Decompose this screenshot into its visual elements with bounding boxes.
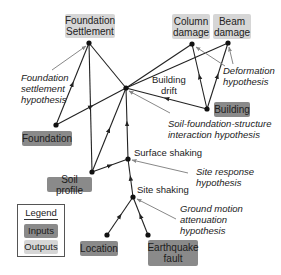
node-dot-site-shaking[interactable] (130, 194, 135, 199)
node-dot-building[interactable] (204, 106, 209, 111)
hypothesis-ground-motion: Ground motion attenuation hypothesis (180, 203, 243, 236)
edge-site-to-surface (128, 159, 133, 197)
pointer-deformation-hyp-column (196, 47, 225, 66)
hypothesis-foundation-settlement: Foundation settlement hypothesis (21, 72, 69, 105)
node-dot-foundation[interactable] (53, 122, 58, 127)
node-dot-soil-profile[interactable] (89, 169, 94, 174)
node-beam-damage[interactable]: Beam damage (213, 14, 251, 39)
node-dot-earthquake-fault[interactable] (145, 232, 150, 237)
node-dot-building-drift[interactable] (123, 85, 128, 90)
legend-divider (24, 219, 58, 220)
hypothesis-site-response: Site response hypothesis (196, 166, 254, 188)
edge-soil-to-drift (92, 88, 126, 172)
edge-soil-to-surface (92, 159, 128, 172)
node-location[interactable]: Location (80, 241, 118, 256)
legend-item-inputs: Inputs (24, 224, 58, 238)
node-dot-beam-damage[interactable] (225, 40, 230, 45)
edge-fault-to-site (133, 197, 148, 235)
legend-item-outputs: Outputs (24, 240, 58, 254)
node-dot-location[interactable] (104, 232, 109, 237)
hypothesis-deformation: Deformation hypothesis (223, 65, 275, 87)
edge-drift-to-settlement (89, 43, 126, 88)
node-column-damage[interactable]: Column damage (172, 14, 210, 39)
node-dot-foundation-settlement[interactable] (86, 40, 91, 45)
pointer-deformation-hyp-beam (229, 47, 233, 64)
pointer-ground-motion-hyp (137, 199, 176, 219)
legend-title: Legend (18, 207, 64, 218)
node-dot-surface-shaking[interactable] (125, 156, 130, 161)
edge-surface-to-drift (126, 88, 128, 159)
label-site-shaking: Site shaking (137, 184, 189, 195)
hypothesis-soil-foundation-structure: Soil-foundation-structure interaction hy… (168, 118, 272, 140)
pointer-foundation-settlement-hyp (52, 46, 86, 70)
node-earthquake-fault[interactable]: Earthquake fault (148, 240, 198, 266)
node-foundation-settlement[interactable]: Foundation Settlement (65, 14, 115, 38)
legend: Legend Inputs Outputs (17, 204, 65, 257)
node-building[interactable]: Building (214, 102, 250, 117)
node-dot-column-damage[interactable] (189, 41, 194, 46)
node-foundation[interactable]: Foundation (22, 131, 72, 146)
label-building-drift: Building drift (152, 74, 186, 96)
label-surface-shaking: Surface shaking (134, 147, 202, 158)
node-soil-profile[interactable]: Soil profile (47, 177, 92, 192)
pointer-site-response-hyp (132, 160, 188, 173)
edge-location-to-site (107, 197, 133, 235)
